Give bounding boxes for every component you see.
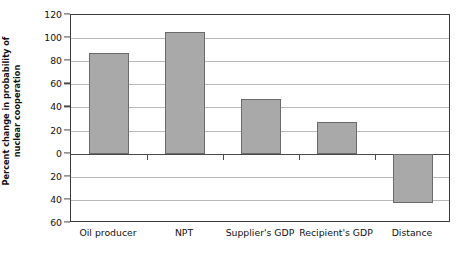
bar — [241, 99, 281, 153]
y-tick-label: 100 — [18, 32, 62, 43]
y-tick-label: 40 — [18, 101, 62, 112]
x-tick-mark — [299, 154, 300, 160]
y-tick-label: 0 — [18, 147, 62, 158]
y-tick-label: 20 — [18, 124, 62, 135]
bar — [89, 53, 129, 154]
x-category-label: NPT — [146, 227, 222, 239]
bar — [165, 32, 205, 153]
x-category-label: Oil producer — [70, 227, 146, 239]
x-category-label: Supplier's GDP — [222, 227, 298, 239]
x-category-label: Distance — [374, 227, 450, 239]
x-tick-mark — [223, 154, 224, 160]
gridline — [71, 38, 449, 39]
x-category-label: Recipient's GDP — [298, 227, 374, 239]
bar — [393, 154, 433, 204]
y-tick-label: 40 — [18, 193, 62, 204]
x-tick-mark — [147, 154, 148, 160]
y-tick-label: 60 — [18, 217, 62, 228]
y-axis-title-line-1: Percent change in probability of — [1, 37, 11, 186]
plot-area — [70, 14, 450, 222]
y-tick-label: 120 — [18, 9, 62, 20]
y-tick-label: 80 — [18, 55, 62, 66]
bar — [317, 122, 357, 153]
y-tick-label: 60 — [18, 78, 62, 89]
chart-figure: Percent change in probability of nuclear… — [0, 0, 462, 270]
x-tick-mark — [375, 154, 376, 160]
y-tick-label: 20 — [18, 170, 62, 181]
